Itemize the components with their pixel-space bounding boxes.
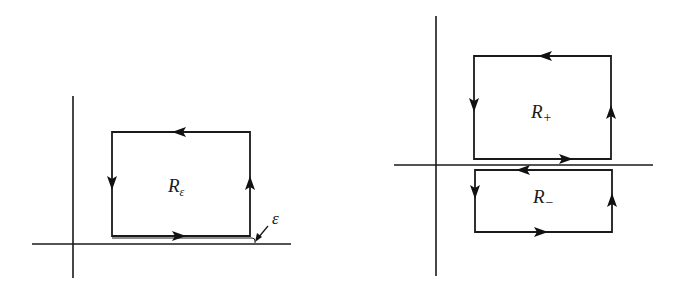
epsilon-label: ε <box>272 209 279 228</box>
region-label-r-plus: R+ <box>530 101 552 125</box>
right-panel: R+ R− <box>394 16 653 276</box>
region-label-r-epsilon: Rε <box>167 175 185 199</box>
left-panel: Rε ε <box>32 96 291 278</box>
region-label-r-minus: R− <box>532 186 554 210</box>
contour-diagram: Rε ε R+ R− <box>0 0 682 286</box>
rect-contour-r-epsilon <box>112 132 250 236</box>
epsilon-gap-mark <box>112 238 255 243</box>
